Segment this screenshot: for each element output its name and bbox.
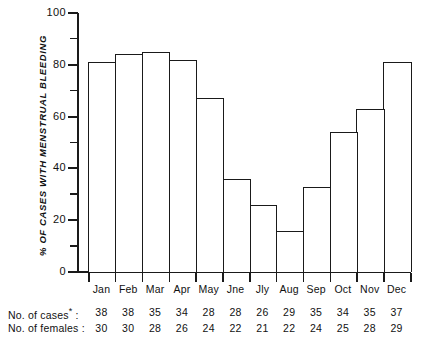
x-tick xyxy=(142,273,144,282)
females-value-jly: 21 xyxy=(249,322,276,334)
cases-value-aug: 29 xyxy=(276,306,303,318)
x-tick xyxy=(115,273,117,282)
y-tick-minor xyxy=(70,142,78,144)
y-tick-major xyxy=(68,271,78,273)
y-tick-minor xyxy=(70,90,78,92)
cases-row-colon: : xyxy=(76,309,79,321)
females-value-may: 24 xyxy=(195,322,222,334)
cases-value-jne: 28 xyxy=(222,306,249,318)
y-tick-label: 20 xyxy=(32,213,66,225)
y-tick-major xyxy=(68,116,78,118)
x-tick xyxy=(410,273,412,282)
chart-figure: % OF CASES WITH MENSTRUAL BLEEDING 02040… xyxy=(0,0,430,342)
month-label-sep: Sep xyxy=(303,283,330,295)
bar-jne xyxy=(222,179,250,272)
females-value-oct: 25 xyxy=(330,322,357,334)
cases-value-mar: 35 xyxy=(142,306,169,318)
cases-value-jly: 26 xyxy=(249,306,276,318)
x-tick xyxy=(276,273,278,282)
y-axis-title: % OF CASES WITH MENSTRUAL BLEEDING xyxy=(37,16,48,276)
bar-series xyxy=(88,13,410,272)
cases-row-text: No. of cases xyxy=(8,309,69,321)
y-tick-minor xyxy=(70,193,78,195)
y-tick-label: 40 xyxy=(32,161,66,173)
month-label-jly: Jly xyxy=(249,283,276,295)
bar-feb xyxy=(115,54,143,272)
bar-sep xyxy=(303,187,331,272)
x-tick xyxy=(249,273,251,282)
month-label-apr: Apr xyxy=(169,283,196,295)
bar-nov xyxy=(356,109,384,272)
bar-jly xyxy=(249,205,277,272)
females-value-jan: 30 xyxy=(88,322,115,334)
y-tick-major xyxy=(68,167,78,169)
y-tick-minor xyxy=(70,245,78,247)
bar-aug xyxy=(276,231,304,272)
y-axis-line xyxy=(77,13,79,273)
x-tick xyxy=(222,273,224,282)
x-tick xyxy=(88,273,90,282)
y-tick-label: 80 xyxy=(32,58,66,70)
cases-value-oct: 34 xyxy=(330,306,357,318)
month-label-mar: Mar xyxy=(142,283,169,295)
bar-may xyxy=(195,98,223,272)
x-tick xyxy=(195,273,197,282)
females-value-aug: 22 xyxy=(276,322,303,334)
month-label-feb: Feb xyxy=(115,283,142,295)
y-tick-label: 0 xyxy=(32,265,66,277)
bar-mar xyxy=(142,52,170,272)
females-value-nov: 28 xyxy=(356,322,383,334)
x-tick xyxy=(169,273,171,282)
cases-value-feb: 38 xyxy=(115,306,142,318)
females-row-text: No. of females xyxy=(8,322,79,334)
y-tick-label: 100 xyxy=(32,6,66,18)
bar-apr xyxy=(169,60,197,272)
y-tick-major xyxy=(68,64,78,66)
month-label-dec: Dec xyxy=(383,283,410,295)
bar-jan xyxy=(88,62,116,272)
month-label-may: May xyxy=(195,283,222,295)
x-tick xyxy=(330,273,332,282)
females-value-sep: 24 xyxy=(303,322,330,334)
females-value-jne: 22 xyxy=(222,322,249,334)
month-label-nov: Nov xyxy=(356,283,383,295)
females-value-mar: 28 xyxy=(142,322,169,334)
month-label-oct: Oct xyxy=(330,283,357,295)
bar-oct xyxy=(330,132,358,272)
cases-value-nov: 35 xyxy=(356,306,383,318)
cases-footnote-marker: * xyxy=(69,306,73,316)
cases-value-dec: 37 xyxy=(383,306,410,318)
y-tick-major xyxy=(68,219,78,221)
females-value-dec: 29 xyxy=(383,322,410,334)
y-tick-major xyxy=(68,12,78,14)
x-tick xyxy=(303,273,305,282)
x-tick xyxy=(383,273,385,282)
x-tick xyxy=(356,273,358,282)
month-label-jan: Jan xyxy=(88,283,115,295)
y-tick-label: 60 xyxy=(32,110,66,122)
females-row-colon: : xyxy=(82,322,85,334)
cases-value-may: 28 xyxy=(195,306,222,318)
cases-value-apr: 34 xyxy=(169,306,196,318)
females-value-apr: 26 xyxy=(169,322,196,334)
cases-value-sep: 35 xyxy=(303,306,330,318)
month-label-jne: Jne xyxy=(222,283,249,295)
females-value-feb: 30 xyxy=(115,322,142,334)
y-tick-minor xyxy=(70,38,78,40)
cases-value-jan: 38 xyxy=(88,306,115,318)
month-label-aug: Aug xyxy=(276,283,303,295)
bar-dec xyxy=(383,62,411,272)
